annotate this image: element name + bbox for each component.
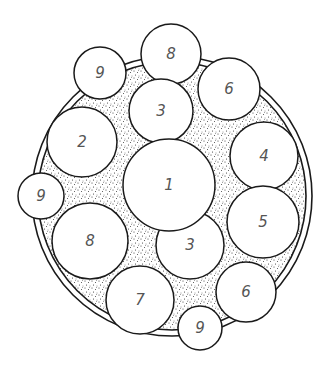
planting-circle-c9-left: 9 xyxy=(18,173,64,219)
planting-circles: 89632495831769 xyxy=(18,24,299,350)
circle-label: 3 xyxy=(185,236,195,254)
planting-circle-c4: 4 xyxy=(230,122,298,190)
planting-diagram: 89632495831769 xyxy=(0,0,320,373)
circle-label: 6 xyxy=(224,80,234,98)
planting-circle-c8-top: 8 xyxy=(141,24,201,84)
planting-circle-c9-bottom: 9 xyxy=(178,306,222,350)
planting-circle-c1: 1 xyxy=(123,139,215,231)
planting-circle-c9-top: 9 xyxy=(74,47,126,99)
circle-label: 9 xyxy=(36,187,46,205)
circle-label: 2 xyxy=(77,133,87,151)
planting-circle-c5: 5 xyxy=(227,186,299,258)
planting-circle-c6-bottom: 6 xyxy=(216,262,276,322)
circle-label: 8 xyxy=(166,45,176,63)
planting-circle-c8-left: 8 xyxy=(52,203,128,279)
circle-label: 1 xyxy=(164,176,174,194)
circle-label: 6 xyxy=(241,283,251,301)
circle-label: 5 xyxy=(258,213,268,231)
circle-label: 9 xyxy=(95,64,105,82)
circle-label: 4 xyxy=(259,147,269,165)
circle-label: 7 xyxy=(135,291,145,309)
circle-label: 3 xyxy=(156,102,166,120)
planting-circle-c7: 7 xyxy=(106,266,174,334)
circle-label: 8 xyxy=(85,232,95,250)
planting-circle-c6-top: 6 xyxy=(198,58,260,120)
planting-circle-c3-top: 3 xyxy=(129,79,193,143)
circle-label: 9 xyxy=(195,319,205,337)
planting-circle-c2: 2 xyxy=(47,107,117,177)
